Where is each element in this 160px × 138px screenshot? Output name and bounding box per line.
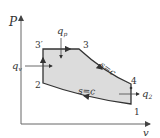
pv-diagram: P v 1 2 3 3′ 4 s=c s=c qp qv q2 <box>0 0 160 138</box>
point-label-3prime: 3′ <box>35 40 43 50</box>
point-label-1: 1 <box>134 107 140 117</box>
v-axis-label: v <box>143 127 149 138</box>
point-marker-4 <box>130 87 133 90</box>
process-label-1-2: s=c <box>78 86 96 97</box>
heat-label-q2: q2 <box>142 88 152 100</box>
point-label-4: 4 <box>131 76 137 86</box>
p-axis-label: P <box>8 15 18 29</box>
point-label-2: 2 <box>35 80 41 90</box>
heat-label-qp: qp <box>57 25 67 38</box>
point-label-3: 3 <box>83 40 89 50</box>
